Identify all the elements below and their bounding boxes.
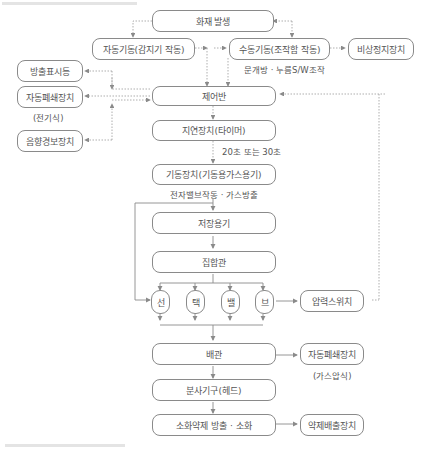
- node-auto-start: 자동기동(감지기 작동): [92, 38, 195, 60]
- node-storage: 저장용기: [152, 212, 276, 234]
- node-valve-3: 밸: [221, 290, 240, 314]
- node-discharge: 소화약제 방출 · 소화: [152, 414, 276, 436]
- node-manual-start: 수동기동(조작함 작동): [229, 38, 330, 60]
- node-alarm: 음향경보장치: [17, 130, 83, 152]
- node-fire: 화재 발생: [152, 10, 274, 32]
- node-valve-4: 브: [255, 290, 274, 314]
- node-manifold: 집합관: [152, 251, 276, 273]
- node-nozzle: 분사기구(헤드): [152, 379, 276, 401]
- delay-time-note: 20초 또는 30초: [222, 145, 281, 157]
- node-auto-close-electric: 자동폐쇄장치: [17, 86, 83, 108]
- node-valve-1: 선: [151, 290, 170, 314]
- node-discharge-lamp: 방출표시등: [17, 60, 83, 82]
- node-auto-close-gas: 자동폐쇄장치: [300, 343, 364, 365]
- node-control-panel: 제어반: [152, 86, 276, 106]
- electric-type-note: (전기식): [33, 111, 64, 123]
- node-pressure-switch: 압력스위치: [300, 290, 364, 312]
- node-valve-2: 택: [186, 290, 205, 314]
- node-delay: 지연장치(타이머): [152, 120, 276, 141]
- manual-note: 문개방 · 누름S/W조작: [244, 63, 325, 75]
- node-exhaust: 약제배출장치: [300, 414, 364, 436]
- node-emergency-stop: 비상정지장치: [348, 38, 414, 60]
- starter-note: 전자밸브작동 · 가스방출: [170, 188, 258, 200]
- faded-header-text: [2, 2, 137, 5]
- faded-footer-text: [5, 444, 125, 447]
- node-starter: 기동장치(기동용가스용기): [152, 164, 276, 185]
- gas-type-note: (가스압식): [313, 369, 352, 381]
- node-piping: 배관: [152, 343, 276, 365]
